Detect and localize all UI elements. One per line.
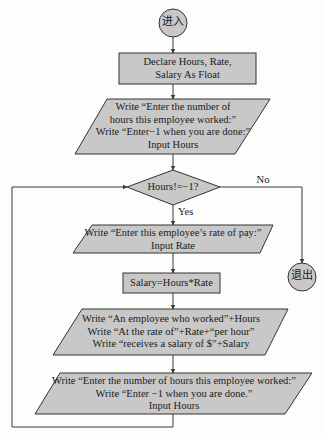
input-hours-line-4: Input Hours [72,139,274,152]
input-rate-line-2: Input Rate [70,240,276,253]
decision-label: Hours!=−1? [130,181,216,194]
input-hours-2-text: Write “Enter the number of hours this em… [40,375,308,413]
end-label: 退出 [288,270,316,283]
input-hours-text: Write “Enter the number of hours this em… [72,101,274,151]
output-line-2: Write “At the rate of”+Rate+“per hour” [60,326,282,339]
declare-text: Declare Hours, Rate, Salary As Float [119,56,256,81]
input-hours-line-2: hours this employee worked:” [72,114,274,127]
input-rate-line-1: Write “Enter this employee’s rate of pay… [70,227,276,240]
output-line-3: Write “receives a salary of $”+Salary [60,338,282,351]
input-rate-text: Write “Enter this employee’s rate of pay… [70,227,276,252]
yes-label: Yes [178,206,204,219]
start-label: 进入 [159,16,187,29]
no-label: No [252,174,274,187]
output-line-1: Write “An employee who worked”+Hours [60,313,282,326]
input-hours-line-3: Write “Enter−1 when you are done:” [72,126,274,139]
declare-line-1: Declare Hours, Rate, [119,56,256,69]
flowchart: 进入 Declare Hours, Rate, Salary As Float … [0,0,325,436]
salary-text: Salary=Hours*Rate [123,277,220,290]
output-salary-text: Write “An employee who worked”+Hours Wri… [60,313,282,351]
declare-line-2: Salary As Float [119,69,256,82]
input-hours-2-line-3: Input Hours [40,400,308,413]
input-hours-2-line-2: Write “Enter −1 when you are done.” [40,388,308,401]
input-hours-line-1: Write “Enter the number of [72,101,274,114]
input-hours-2-line-1: Write “Enter the number of hours this em… [40,375,308,388]
